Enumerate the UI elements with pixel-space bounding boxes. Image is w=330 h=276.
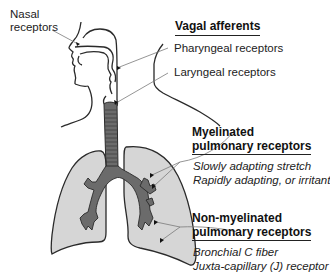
non-myelinated-receptor-list: Bronchial C fiber Juxta-capillary (J) re… [193, 245, 328, 273]
right-lung [124, 147, 196, 266]
non-myelinated-header-line1: Non-myelinated [192, 212, 311, 226]
pharyngeal-receptors-label: Pharyngeal receptors [174, 42, 283, 55]
rapidly-adapting-irritant-label: Rapidly adapting, or irritant [193, 173, 330, 187]
myelinated-header: Myelinated pulmonary receptors [192, 126, 311, 155]
trachea [104, 102, 118, 168]
slowly-adapting-stretch-label: Slowly adapting stretch [193, 159, 330, 173]
non-myelinated-header-line2: pulmonary receptors [192, 226, 311, 242]
nasal-receptors-label: Nasal receptors [10, 8, 58, 34]
bronchial-c-fiber-label: Bronchial C fiber [193, 245, 328, 259]
non-myelinated-header: Non-myelinated pulmonary receptors [192, 212, 311, 241]
myelinated-header-line2: pulmonary receptors [192, 140, 311, 156]
myelinated-header-line1: Myelinated [192, 126, 311, 140]
nasal-label-line2: receptors [10, 21, 58, 34]
laryngeal-receptors-label: Laryngeal receptors [174, 66, 276, 79]
juxta-capillary-receptor-label: Juxta-capillary (J) receptor [193, 259, 328, 273]
nasal-label-line1: Nasal [10, 8, 58, 21]
torso-outline [154, 44, 220, 126]
vagal-afferents-header: Vagal afferents [175, 20, 260, 36]
respiratory-receptor-diagram: Nasal receptors Vagal afferents Pharynge… [0, 0, 330, 276]
myelinated-receptor-list: Slowly adapting stretch Rapidly adapting… [193, 159, 330, 187]
